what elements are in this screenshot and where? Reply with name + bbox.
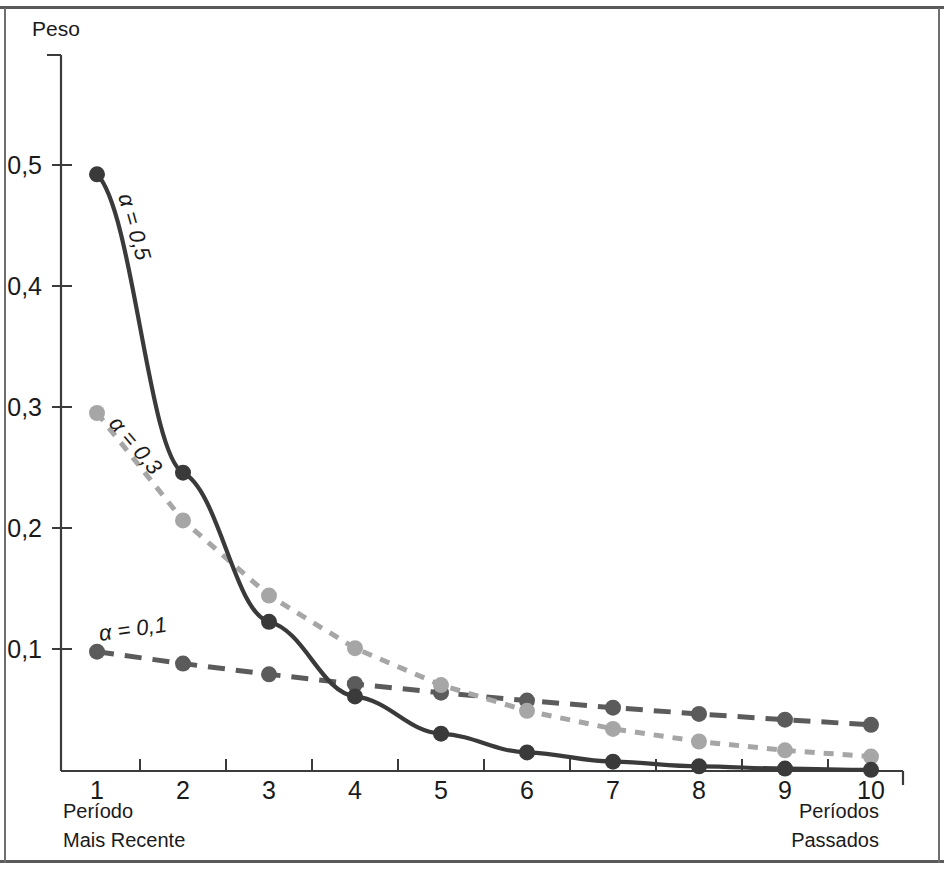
- data-point-marker[interactable]: [175, 656, 191, 672]
- y-axis-line: [47, 55, 61, 771]
- y-tick-label-0: 0,1: [7, 635, 42, 663]
- series-layer: [89, 166, 879, 777]
- x-right-caption-line2: Passados: [791, 829, 879, 851]
- x-tick-labels: 12345678910: [90, 776, 885, 804]
- data-point-marker[interactable]: [777, 712, 793, 728]
- data-point-marker[interactable]: [261, 614, 277, 630]
- data-point-marker[interactable]: [519, 744, 535, 760]
- data-point-marker[interactable]: [605, 721, 621, 737]
- x-tick-label-8: 8: [692, 776, 706, 804]
- y-tick-label-4: 0,5: [7, 151, 42, 179]
- x-tick-label-6: 6: [520, 776, 534, 804]
- data-point-marker[interactable]: [691, 734, 707, 750]
- data-point-marker[interactable]: [261, 666, 277, 682]
- data-point-marker[interactable]: [605, 700, 621, 716]
- data-point-marker[interactable]: [89, 405, 105, 421]
- series-annotation-alpha-01: α = 0,1: [97, 612, 168, 646]
- x-tick-label-4: 4: [348, 776, 362, 804]
- y-tick-label-3: 0,4: [7, 272, 42, 300]
- data-point-marker[interactable]: [863, 762, 879, 778]
- series-line-alpha-0-3: [97, 413, 871, 757]
- data-point-marker[interactable]: [89, 166, 105, 182]
- x-tick-label-2: 2: [176, 776, 190, 804]
- data-point-marker[interactable]: [777, 742, 793, 758]
- x-tick-label-5: 5: [434, 776, 448, 804]
- data-point-marker[interactable]: [691, 758, 707, 774]
- x-tick-label-3: 3: [262, 776, 276, 804]
- data-point-marker[interactable]: [777, 761, 793, 777]
- x-right-caption-line1: Períodos: [799, 800, 879, 822]
- data-point-marker[interactable]: [605, 754, 621, 770]
- data-point-marker[interactable]: [519, 703, 535, 719]
- y-tick-label-2: 0,3: [7, 393, 42, 421]
- data-point-marker[interactable]: [433, 726, 449, 742]
- data-point-marker[interactable]: [347, 688, 363, 704]
- data-point-marker[interactable]: [175, 512, 191, 528]
- y-tick-labels: 0,1 0,2 0,3 0,4 0,5: [7, 151, 42, 663]
- x-left-caption-line1: Período: [63, 800, 133, 822]
- data-point-marker[interactable]: [175, 465, 191, 481]
- data-point-marker[interactable]: [261, 588, 277, 604]
- y-axis-title: Peso: [32, 17, 80, 40]
- data-point-marker[interactable]: [863, 717, 879, 733]
- data-point-marker[interactable]: [433, 677, 449, 693]
- data-point-marker[interactable]: [89, 644, 105, 660]
- x-left-caption-line2: Mais Recente: [63, 829, 185, 851]
- data-point-marker[interactable]: [347, 640, 363, 656]
- weights-decay-chart: Peso 0,1 0,2 0,3 0,4 0,5 12345678910 α: [0, 0, 944, 871]
- x-tick-label-9: 9: [778, 776, 792, 804]
- data-point-marker[interactable]: [691, 706, 707, 722]
- figure-panel: Peso 0,1 0,2 0,3 0,4 0,5 12345678910 α: [0, 0, 944, 871]
- series-line-alpha-0-1: [97, 652, 871, 725]
- y-tick-label-1: 0,2: [7, 514, 42, 542]
- x-tick-label-7: 7: [606, 776, 620, 804]
- series-line-alpha-0-5: [97, 174, 871, 769]
